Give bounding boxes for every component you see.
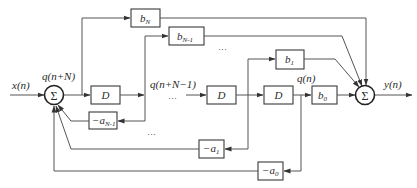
svg-text:D: D — [101, 89, 110, 101]
feedback-box-a0: −a0 — [258, 162, 283, 180]
filter-block-diagram: x(n) Σ q(n+N) bN D bN-1 −aN-1 q(n+N−1) …… — [0, 0, 417, 188]
ellipsis-top: … — [218, 42, 227, 52]
ellipsis-bottom: … — [147, 127, 156, 137]
output-label: y(n) — [383, 78, 402, 91]
left-summer: Σ — [45, 86, 64, 105]
gain-box-b0: b0 — [312, 86, 337, 104]
delay-box-1: D — [91, 86, 120, 104]
feedback-box-a1: −a1 — [199, 140, 224, 158]
svg-text:D: D — [217, 89, 226, 101]
delay-box-2: D — [207, 86, 236, 104]
state-label-last: q(n) — [297, 72, 316, 85]
sigma-icon: Σ — [51, 89, 58, 103]
gain-box-bN-1: bN-1 — [169, 27, 204, 45]
sigma-icon: Σ — [362, 89, 369, 103]
ellipsis-mid: … — [168, 91, 177, 101]
right-summer: Σ — [356, 86, 375, 105]
gain-box-bN: bN — [131, 9, 160, 27]
svg-text:D: D — [274, 89, 283, 101]
input-signal: x(n) — [10, 79, 44, 95]
state-label-mid: q(n+N−1) — [150, 78, 196, 91]
gain-box-b1: b1 — [276, 50, 304, 69]
output-signal: y(n) — [375, 78, 412, 95]
delay-box-3: D — [264, 86, 293, 104]
feedback-box-aN-1: −aN-1 — [89, 112, 117, 129]
state-label-top: q(n+N) — [42, 70, 75, 83]
input-label: x(n) — [11, 79, 30, 92]
